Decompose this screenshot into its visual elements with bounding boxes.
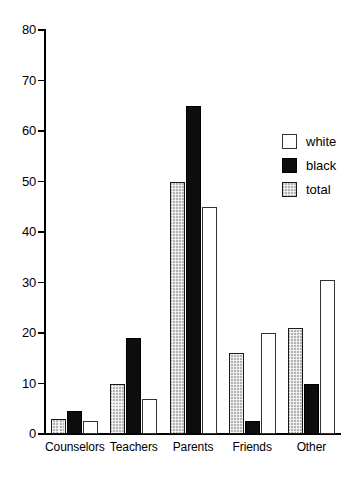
y-axis-tick bbox=[38, 231, 45, 233]
x-axis-label-friends: Friends bbox=[223, 440, 282, 454]
bar-counselors-total bbox=[51, 419, 66, 434]
bar-friends-total bbox=[229, 353, 244, 434]
x-axis-label-parents: Parents bbox=[163, 440, 222, 454]
y-axis-tick-label: 70 bbox=[4, 74, 36, 87]
bar-parents-white bbox=[202, 207, 217, 434]
legend: whiteblacktotal bbox=[282, 130, 354, 202]
legend-swatch-black bbox=[282, 158, 297, 173]
y-axis-tick bbox=[38, 383, 45, 385]
legend-item-total: total bbox=[282, 178, 354, 200]
bar-other-white bbox=[320, 280, 335, 434]
legend-swatch-white bbox=[282, 134, 297, 149]
y-axis-tick bbox=[38, 80, 45, 82]
y-axis-tick-label: 50 bbox=[4, 175, 36, 188]
y-axis-tick bbox=[38, 130, 45, 132]
y-axis-tick bbox=[38, 181, 45, 183]
legend-label-total: total bbox=[306, 183, 331, 196]
bar-other-black bbox=[304, 384, 319, 435]
legend-label-white: white bbox=[306, 135, 336, 148]
bar-teachers-total bbox=[110, 384, 125, 435]
y-axis-tick-label: 60 bbox=[4, 124, 36, 137]
y-axis-tick-label: 30 bbox=[4, 276, 36, 289]
legend-swatch-total bbox=[282, 182, 297, 197]
legend-item-black: black bbox=[282, 154, 354, 176]
bar-friends-black bbox=[245, 421, 260, 434]
y-axis-tick-label: 0 bbox=[4, 427, 36, 440]
bar-counselors-black bbox=[67, 411, 82, 434]
y-axis-tick bbox=[38, 433, 45, 435]
plot-area bbox=[45, 30, 341, 434]
y-axis-tick bbox=[38, 282, 45, 284]
bar-teachers-white bbox=[142, 399, 157, 434]
bar-chart: 01020304050607080 CounselorsTeachersPare… bbox=[0, 0, 355, 477]
x-axis-label-teachers: Teachers bbox=[104, 440, 163, 454]
bar-teachers-black bbox=[126, 338, 141, 434]
legend-label-black: black bbox=[306, 159, 336, 172]
y-axis-tick-label: 10 bbox=[4, 377, 36, 390]
y-axis-tick-label: 20 bbox=[4, 326, 36, 339]
legend-item-white: white bbox=[282, 130, 354, 152]
y-axis-tick-label: 40 bbox=[4, 225, 36, 238]
y-axis-tick bbox=[38, 29, 45, 31]
bar-friends-white bbox=[261, 333, 276, 434]
bar-counselors-white bbox=[83, 421, 98, 434]
x-axis-label-other: Other bbox=[282, 440, 341, 454]
bar-parents-total bbox=[170, 182, 185, 435]
y-axis-tick bbox=[38, 332, 45, 334]
x-axis-label-counselors: Counselors bbox=[45, 440, 104, 454]
bar-other-total bbox=[288, 328, 303, 434]
y-axis-tick-label: 80 bbox=[4, 23, 36, 36]
bar-parents-black bbox=[186, 106, 201, 434]
